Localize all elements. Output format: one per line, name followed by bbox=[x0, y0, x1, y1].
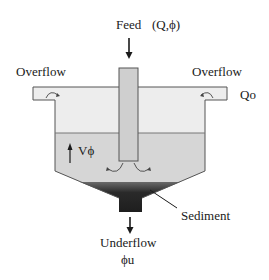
underflow-label: Underflow bbox=[100, 235, 157, 250]
feed-pipe bbox=[119, 68, 138, 161]
overflow-left-label: Overflow bbox=[16, 64, 66, 79]
overflow-trough-left bbox=[33, 87, 55, 100]
feed-params-label: (Q,ϕ) bbox=[152, 17, 180, 32]
feed-label: Feed bbox=[116, 17, 142, 32]
underflow-arrow-icon bbox=[127, 217, 134, 234]
overflow-trough-right bbox=[205, 87, 227, 100]
overflow-right-label: Overflow bbox=[192, 64, 242, 79]
sediment-zone bbox=[80, 182, 180, 212]
sediment-label: Sediment bbox=[181, 208, 230, 223]
sediment-leader-line bbox=[150, 190, 177, 208]
velocity-label: Vϕ bbox=[78, 143, 94, 158]
feed-arrow-icon bbox=[126, 38, 133, 59]
overflow-flow-label: Qo bbox=[240, 87, 256, 102]
thickener-diagram: Feed (Q,ϕ) Overflow Overflow Qo Vϕ Sedim… bbox=[0, 0, 269, 280]
underflow-param-label: ϕu bbox=[121, 252, 135, 267]
